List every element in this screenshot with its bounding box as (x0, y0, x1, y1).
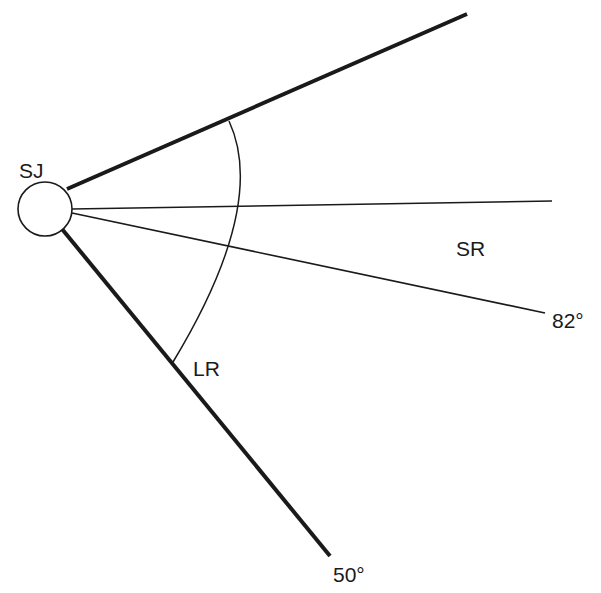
origin-label: SJ (19, 159, 44, 182)
angle-diagram: SJ SR LR 82° 50° (0, 0, 601, 593)
upper-region-label: SR (456, 237, 485, 260)
angle-50-label: 50° (333, 563, 365, 586)
origin-circle (18, 182, 72, 236)
lower-region-label: LR (193, 357, 220, 380)
angle-82-label: 82° (552, 309, 584, 332)
